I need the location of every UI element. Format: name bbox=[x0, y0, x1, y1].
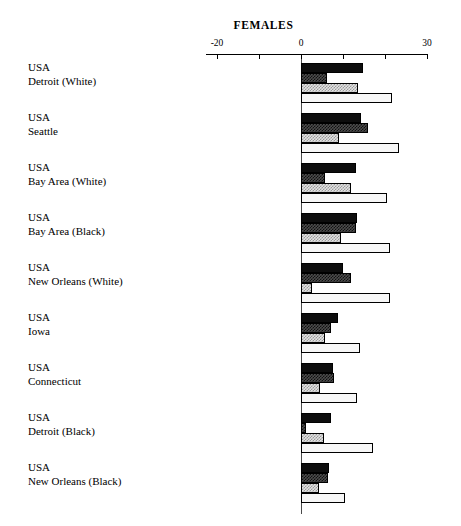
bar bbox=[301, 233, 341, 243]
category-label: USASeattle bbox=[28, 110, 203, 138]
category-label: USADetroit (Black) bbox=[28, 410, 203, 438]
category-label-line2: Bay Area (Black) bbox=[28, 224, 203, 238]
category-label-line1: USA bbox=[28, 160, 203, 174]
x-axis-tick bbox=[217, 54, 218, 59]
bar bbox=[301, 83, 358, 93]
bar bbox=[301, 483, 319, 493]
bar bbox=[301, 393, 357, 403]
x-axis-tick bbox=[343, 54, 344, 59]
bar bbox=[301, 193, 387, 203]
category-label: USANew Orleans (Black) bbox=[28, 460, 203, 488]
x-axis-tick bbox=[427, 54, 428, 59]
chart-figure: FEMALES -20030 USADetroit (White)USASeat… bbox=[0, 0, 461, 526]
category-label-line1: USA bbox=[28, 110, 203, 124]
bar bbox=[301, 313, 338, 323]
bar bbox=[301, 163, 356, 173]
category-label: USAIowa bbox=[28, 310, 203, 338]
bar bbox=[301, 333, 325, 343]
category-label-line2: Detroit (Black) bbox=[28, 424, 203, 438]
category-label: USANew Orleans (White) bbox=[28, 260, 203, 288]
bar bbox=[301, 293, 390, 303]
category-label-line2: Detroit (White) bbox=[28, 74, 203, 88]
category-label: USADetroit (White) bbox=[28, 60, 203, 88]
category-label-line1: USA bbox=[28, 310, 203, 324]
category-label-line2: Iowa bbox=[28, 324, 203, 338]
category-label-line1: USA bbox=[28, 60, 203, 74]
bar bbox=[301, 423, 306, 433]
bar bbox=[301, 363, 333, 373]
bar bbox=[301, 113, 361, 123]
category-label: USABay Area (White) bbox=[28, 160, 203, 188]
bar bbox=[301, 173, 325, 183]
bar bbox=[301, 183, 351, 193]
bar bbox=[301, 263, 343, 273]
x-axis-tick bbox=[301, 54, 302, 59]
bar bbox=[301, 463, 329, 473]
bar bbox=[301, 213, 357, 223]
bar bbox=[301, 373, 334, 383]
x-axis-tick-label: 0 bbox=[281, 38, 321, 48]
category-label-line2: New Orleans (Black) bbox=[28, 474, 203, 488]
x-axis-tick-label: -20 bbox=[197, 38, 237, 48]
bar bbox=[301, 143, 399, 153]
category-label-line1: USA bbox=[28, 210, 203, 224]
category-label-line2: Bay Area (White) bbox=[28, 174, 203, 188]
category-label-line2: Connecticut bbox=[28, 374, 203, 388]
category-label-line1: USA bbox=[28, 360, 203, 374]
bar bbox=[301, 133, 339, 143]
x-axis-tick bbox=[385, 54, 386, 59]
bar bbox=[301, 223, 356, 233]
bar bbox=[301, 443, 373, 453]
bar bbox=[301, 73, 327, 83]
x-axis-line bbox=[206, 54, 428, 55]
category-label: USABay Area (Black) bbox=[28, 210, 203, 238]
category-label-line1: USA bbox=[28, 260, 203, 274]
bar bbox=[301, 123, 368, 133]
bar bbox=[301, 383, 320, 393]
x-axis-tick-label: 30 bbox=[407, 38, 447, 48]
bar bbox=[301, 323, 331, 333]
category-label: USAConnecticut bbox=[28, 360, 203, 388]
bar bbox=[301, 413, 331, 423]
bar bbox=[301, 243, 390, 253]
bar bbox=[301, 93, 392, 103]
bar bbox=[301, 273, 351, 283]
bar bbox=[301, 473, 328, 483]
bar bbox=[301, 343, 360, 353]
category-label-line1: USA bbox=[28, 460, 203, 474]
category-label-line2: New Orleans (White) bbox=[28, 274, 203, 288]
x-axis-tick bbox=[259, 54, 260, 59]
bar bbox=[301, 63, 363, 73]
category-label-line2: Seattle bbox=[28, 124, 203, 138]
category-label-line1: USA bbox=[28, 410, 203, 424]
bar bbox=[301, 433, 324, 443]
bar bbox=[301, 493, 345, 503]
bar bbox=[301, 283, 312, 293]
